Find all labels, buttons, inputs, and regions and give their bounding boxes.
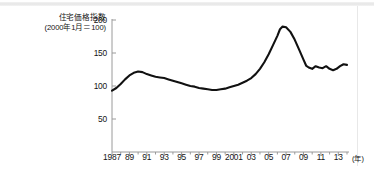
chart-figure: 住宅価格指数 (2000年1月＝100) 50100150200 1987899…	[0, 0, 374, 174]
x-axis-unit-label: (年)	[352, 152, 364, 163]
x-axis-tick-label: 13	[323, 152, 353, 162]
y-axis-tick-label: 100	[81, 81, 107, 91]
y-axis-tick-label: 200	[81, 15, 107, 25]
data-series-line	[112, 27, 347, 91]
y-axis-tick-label: 150	[81, 48, 107, 58]
plot-area	[0, 0, 374, 174]
y-axis-tick-label: 50	[81, 114, 107, 124]
